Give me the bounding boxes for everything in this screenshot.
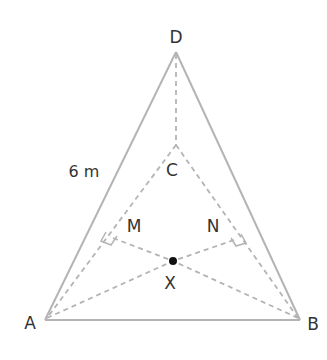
segment-MX [113, 238, 173, 261]
label-A: A [24, 313, 36, 333]
label-M: M [127, 216, 142, 236]
point-X [169, 257, 177, 265]
edge-length-label: 6 m [69, 162, 100, 181]
edge-CB [176, 145, 298, 318]
edge-DB [176, 52, 300, 320]
edge-AX [47, 261, 173, 318]
label-X: X [164, 273, 176, 293]
tetrahedron-diagram: D C A B M N X 6 m [0, 0, 327, 360]
label-N: N [207, 216, 220, 236]
label-B: B [307, 314, 319, 334]
edge-BX [173, 261, 298, 318]
edge-DA [45, 52, 176, 320]
label-D: D [169, 27, 182, 47]
segment-NX [173, 240, 234, 261]
label-C: C [166, 160, 178, 180]
edge-CA [47, 145, 176, 318]
